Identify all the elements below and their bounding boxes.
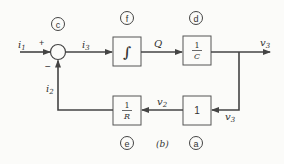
tag-e-label: e (124, 139, 129, 149)
branch-wire (212, 52, 239, 110)
tag-d-label: d (193, 14, 198, 24)
integral-symbol: ∫ (123, 44, 131, 60)
inv-r-denominator: R (123, 112, 130, 121)
signal-v2-label: v2 (157, 96, 168, 109)
signal-i1-label: i1 (18, 39, 26, 52)
plus-sign: + (39, 38, 44, 48)
summing-junction (51, 45, 66, 60)
tag-a-label: a (193, 139, 198, 149)
unity-gain-value: 1 (194, 105, 200, 116)
inv-r-numerator: 1 (124, 101, 129, 110)
minus-sign: − (45, 61, 51, 72)
signal-q-label: Q (154, 38, 162, 49)
tag-c-label: c (56, 20, 61, 30)
signal-v3-branch-label: v3 (225, 111, 236, 124)
tag-f-label: f (126, 14, 129, 24)
inv-c-denominator: C (194, 52, 200, 61)
signal-i3-label: i3 (82, 39, 90, 52)
inv-c-numerator: 1 (194, 41, 199, 50)
block-diagram: i1 + c − i3 ∫ f Q 1 C d v3 v3 1 a v2 1 R… (0, 0, 284, 164)
feedback-wire (58, 61, 113, 111)
figure-label: (b) (156, 139, 169, 149)
signal-i2-label: i2 (46, 83, 54, 96)
signal-v3-output-label: v3 (260, 37, 271, 50)
